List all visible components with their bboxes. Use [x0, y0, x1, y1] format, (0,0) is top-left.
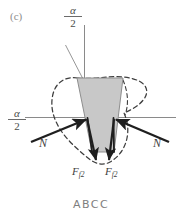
- half-angle-top-label: α 2: [64, 5, 82, 29]
- half-angle-left-label: α 2: [8, 108, 26, 132]
- wedge-indenter-shape: [77, 78, 123, 152]
- friction-force-label-left: Ff2: [72, 166, 85, 179]
- half-angle-left-numerator: α: [8, 108, 26, 118]
- friction-subscript-right: f2: [112, 170, 118, 179]
- half-angle-top-denominator: 2: [64, 18, 82, 29]
- wedge-indentation-diagram: [0, 0, 182, 223]
- half-angle-left-denominator: 2: [8, 121, 26, 132]
- deformed-boundary-right-crease: [123, 80, 127, 115]
- friction-symbol-right: F: [105, 165, 112, 177]
- half-angle-leader-line: [66, 45, 84, 79]
- figure-panel-c: (c) α 2 α 2 N N Ff2 Ff2 ABCC: [0, 0, 182, 223]
- normal-force-label-left: N: [39, 137, 47, 149]
- bottom-caption: ABCC: [0, 198, 182, 211]
- half-angle-top-numerator: α: [64, 5, 82, 15]
- friction-symbol-left: F: [72, 165, 79, 177]
- normal-force-arrow-right: [116, 120, 169, 143]
- panel-label: (c): [10, 11, 22, 22]
- normal-force-label-right: N: [153, 137, 161, 149]
- friction-subscript-left: f2: [79, 170, 85, 179]
- friction-force-label-right: Ff2: [105, 166, 118, 179]
